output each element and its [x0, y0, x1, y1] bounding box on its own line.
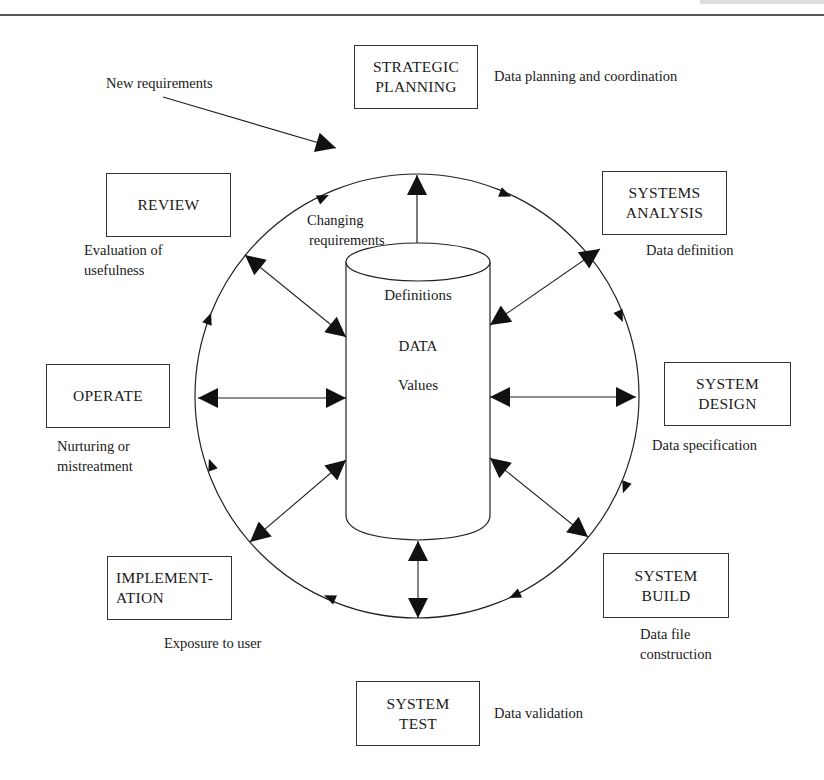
stage-note-system-build-line2: construction: [640, 644, 712, 664]
stage-system-test: SYSTEM TEST: [356, 681, 480, 746]
stage-implementation: IMPLEMENT- ATION: [107, 556, 232, 620]
data-store-values-label: Values: [346, 377, 490, 394]
stage-note-review-line1: Evaluation of: [84, 240, 163, 260]
stage-review: REVIEW: [106, 173, 231, 237]
stage-label-line1: SYSTEM: [635, 566, 698, 586]
stage-system-design: SYSTEM DESIGN: [664, 362, 791, 426]
stage-note-system-design: Data specification: [652, 435, 757, 455]
stage-label-line2: ATION: [116, 588, 164, 608]
stage-label-line1: OPERATE: [73, 386, 143, 406]
stage-note-operate-line2: mistreatment: [57, 456, 133, 476]
new-requirements-label: New requirements: [106, 73, 213, 93]
stage-label-line2: TEST: [399, 714, 437, 734]
stage-note-implementation: Exposure to user: [164, 633, 261, 653]
stage-label-line1: SYSTEMS: [629, 183, 701, 203]
changing-requirements-label-line2: requirements: [309, 230, 385, 250]
stage-label-line1: SYSTEM: [696, 374, 759, 394]
data-store-definitions-label: Definitions: [346, 287, 490, 304]
stage-label-line2: BUILD: [642, 586, 691, 606]
stage-label-line2: DESIGN: [698, 394, 757, 414]
stage-operate: OPERATE: [46, 364, 170, 428]
changing-requirements-label-line1: Changing: [307, 210, 363, 230]
stage-label-line2: ANALYSIS: [626, 203, 704, 223]
stage-strategic-planning: STRATEGIC PLANNING: [354, 45, 478, 109]
stage-label-line2: PLANNING: [375, 77, 457, 97]
stage-label-line1: STRATEGIC: [373, 57, 459, 77]
stage-note-review-line2: usefulness: [84, 260, 144, 280]
stage-note-system-test: Data validation: [494, 703, 583, 723]
stage-label-line1: SYSTEM: [387, 694, 450, 714]
stage-note-system-build-line1: Data file: [640, 624, 690, 644]
stage-system-build: SYSTEM BUILD: [603, 553, 729, 618]
stage-note-operate-line1: Nurturing or: [57, 436, 130, 456]
stage-systems-analysis: SYSTEMS ANALYSIS: [602, 171, 727, 235]
stage-note-strategic-planning: Data planning and coordination: [494, 66, 677, 86]
stage-note-systems-analysis: Data definition: [646, 240, 733, 260]
stage-label-line1: IMPLEMENT-: [116, 568, 213, 588]
new-requirements-arrow: [163, 97, 336, 148]
stage-label-line1: REVIEW: [137, 195, 199, 215]
data-store-title: DATA: [346, 338, 490, 355]
